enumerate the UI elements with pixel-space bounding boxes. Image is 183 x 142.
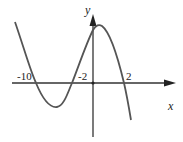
y-axis-label: y [84, 3, 91, 17]
x-axis-arrow-icon [164, 80, 176, 87]
origin-point [91, 81, 94, 84]
x-axis-label: x [167, 99, 174, 113]
tick-label-2: 2 [126, 70, 132, 82]
y-axis-arrow-icon [90, 14, 97, 26]
tick-label-neg10: -10 [17, 70, 32, 82]
graph-canvas: -10 -2 2 y x [0, 0, 183, 142]
function-curve [15, 22, 131, 120]
tick-label-neg2: -2 [78, 70, 87, 82]
function-graph: -10 -2 2 y x [0, 0, 183, 142]
